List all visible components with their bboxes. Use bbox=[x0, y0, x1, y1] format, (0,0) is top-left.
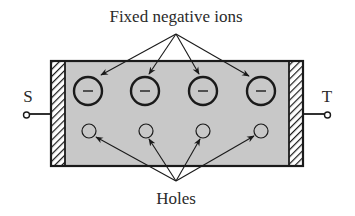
source-label: S bbox=[23, 87, 32, 106]
holes-label: Holes bbox=[156, 189, 196, 208]
semiconductor-channel-diagram: Fixed negative ions S T bbox=[0, 0, 355, 216]
t-terminal-node-icon bbox=[325, 112, 331, 118]
source-contact-hatched bbox=[51, 61, 65, 166]
t-terminal: T bbox=[303, 87, 333, 118]
hole-icon bbox=[196, 124, 210, 138]
negative-ion-icon bbox=[131, 77, 159, 105]
t-label: T bbox=[322, 87, 333, 106]
source-terminal-node-icon bbox=[24, 112, 30, 118]
fixed-negative-ions-label: Fixed negative ions bbox=[109, 7, 242, 26]
negative-ion-icon bbox=[247, 77, 275, 105]
hole-icon bbox=[82, 124, 96, 138]
negative-ion-icon bbox=[189, 77, 217, 105]
hole-icon bbox=[254, 124, 268, 138]
channel-region bbox=[65, 61, 289, 166]
source-terminal: S bbox=[23, 87, 51, 118]
terminal-contact-hatched bbox=[289, 61, 303, 166]
hole-icon bbox=[139, 124, 153, 138]
negative-ion-icon bbox=[74, 77, 102, 105]
